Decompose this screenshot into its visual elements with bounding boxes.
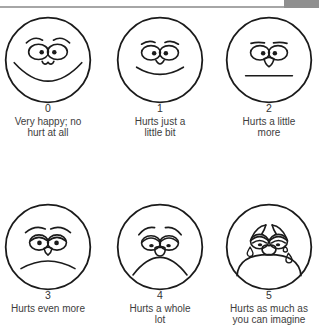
slight-frown-face-icon xyxy=(3,202,93,292)
very-happy-face-icon xyxy=(3,15,93,105)
face-rating-number: 1 xyxy=(157,103,163,114)
deep-frown-face-icon xyxy=(115,202,205,292)
face-caption: Hurts a little more xyxy=(243,116,296,138)
pain-scale-page: 0 Very happy; no hurt at all 1 Hurts jus… xyxy=(0,0,319,336)
neutral-face-icon xyxy=(224,15,314,105)
face-rating-number: 5 xyxy=(266,290,272,301)
small-smile-face-icon xyxy=(115,15,205,105)
pain-scale-item-2: 2 Hurts a little more xyxy=(216,15,319,138)
pain-scale-item-1: 1 Hurts just a little bit xyxy=(107,15,213,138)
face-caption: Hurts just a little bit xyxy=(135,116,186,138)
pain-scale-item-3: 3 Hurts even more xyxy=(0,202,101,314)
crying-face-icon xyxy=(224,202,314,292)
face-caption: Very happy; no hurt at all xyxy=(15,116,82,138)
pain-scale-item-5: 5 Hurts as much as you can imagine xyxy=(216,202,319,325)
pain-scale-item-4: 4 Hurts a whole lot xyxy=(107,202,213,325)
face-rating-number: 4 xyxy=(157,290,163,301)
face-caption: Hurts a whole lot xyxy=(129,303,190,325)
face-rating-number: 3 xyxy=(45,290,51,301)
face-caption: Hurts even more xyxy=(11,303,85,314)
pain-scale-item-0: 0 Very happy; no hurt at all xyxy=(0,15,101,138)
face-caption: Hurts as much as you can imagine xyxy=(230,303,308,325)
header-corner-block xyxy=(284,0,319,8)
face-rating-number: 2 xyxy=(266,103,272,114)
header-rule xyxy=(0,6,284,8)
face-rating-number: 0 xyxy=(45,103,51,114)
